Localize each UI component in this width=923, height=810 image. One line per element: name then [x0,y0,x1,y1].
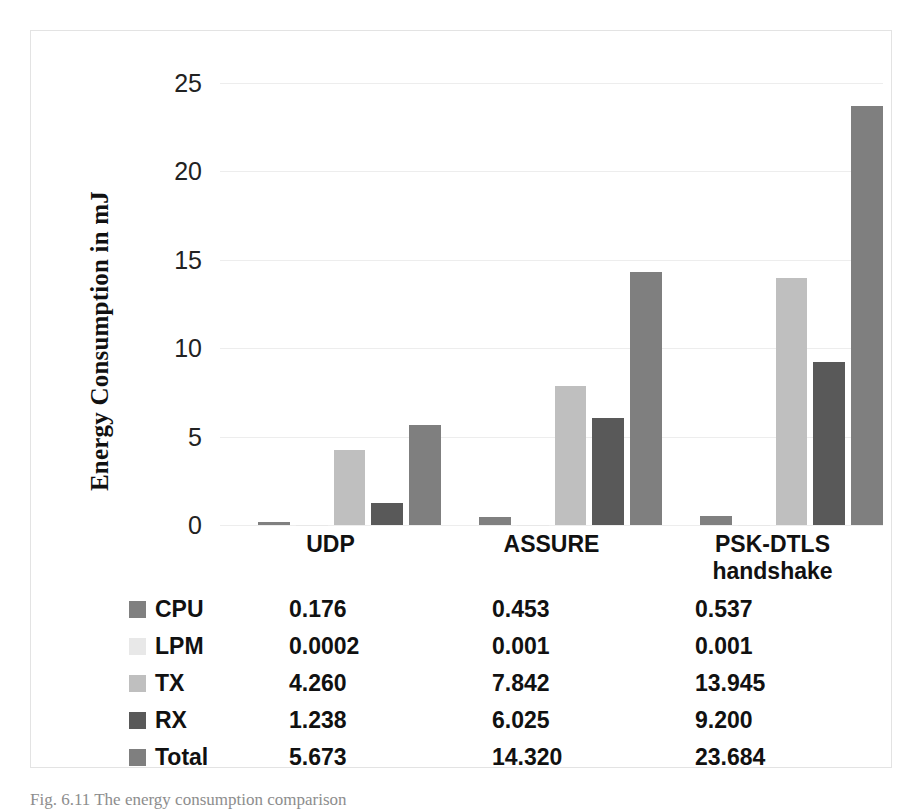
legend-swatch-icon [129,712,146,729]
table-cell-value: 0.453 [484,596,687,623]
bar-tx [776,278,808,525]
y-axis-title: Energy Consumption in mJ [77,151,123,531]
bar-rx [592,418,624,525]
table-cell-value: 0.0002 [281,633,484,660]
table-row: Total5.67314.32023.684 [91,739,891,776]
legend-swatch-icon [129,749,146,766]
category-label-row: UDPASSUREPSK-DTLShandshake [220,531,883,589]
table-row: RX1.2386.0259.200 [91,702,891,739]
legend-label: Total [155,744,208,771]
bar-total [409,425,441,525]
table-cell-value: 0.001 [687,633,890,660]
legend-label: CPU [155,596,204,623]
y-axis-tick-label: 15 [174,245,202,274]
legend-entry-total: Total [91,744,281,771]
bar-rx [371,503,403,525]
gridline [220,525,883,526]
legend-swatch-icon [129,675,146,692]
bar-tx [555,386,587,525]
y-axis-tick-label: 10 [174,334,202,363]
y-axis-tick-label: 0 [188,511,202,540]
category-label: PSK-DTLShandshake [662,531,883,585]
y-axis-tick-label: 20 [174,157,202,186]
bar-rx [813,362,845,525]
table-row: TX4.2607.84213.945 [91,665,891,702]
bar-cpu [479,517,511,525]
legend-label: LPM [155,633,204,660]
y-axis-tick-label: 25 [174,69,202,98]
legend-entry-tx: TX [91,670,281,697]
table-row: CPU0.1760.4530.537 [91,591,891,628]
bar-group [258,83,441,525]
table-cell-value: 23.684 [687,744,890,771]
legend-swatch-icon [129,638,146,655]
table-cell-value: 5.673 [281,744,484,771]
table-cell-value: 7.842 [484,670,687,697]
table-cell-value: 9.200 [687,707,890,734]
table-cell-value: 0.537 [687,596,890,623]
table-cell-value: 4.260 [281,670,484,697]
table-cell-value: 13.945 [687,670,890,697]
table-cell-value: 1.238 [281,707,484,734]
legend-label: TX [155,670,184,697]
data-table: CPU0.1760.4530.537LPM0.00020.0010.001TX4… [91,591,891,776]
bar-cpu [258,522,290,525]
bar-total [630,272,662,525]
legend-label: RX [155,707,187,734]
legend-entry-lpm: LPM [91,633,281,660]
table-row: LPM0.00020.0010.001 [91,628,891,665]
table-cell-value: 6.025 [484,707,687,734]
legend-entry-rx: RX [91,707,281,734]
chart-plot-area: 0510152025 [220,83,883,525]
table-cell-value: 0.001 [484,633,687,660]
bar-group [700,83,883,525]
category-label: ASSURE [441,531,662,558]
table-cell-value: 0.176 [281,596,484,623]
bar-tx [334,450,366,525]
bar-cpu [700,516,732,525]
legend-swatch-icon [129,601,146,618]
table-cell-value: 14.320 [484,744,687,771]
bar-total [851,106,883,525]
figure-frame: Energy Consumption in mJ 0510152025 UDPA… [30,30,892,768]
bar-group [479,83,662,525]
y-axis-tick-label: 5 [188,422,202,451]
figure-caption: Fig. 6.11 The energy consumption compari… [30,790,892,810]
legend-entry-cpu: CPU [91,596,281,623]
category-label: UDP [220,531,441,558]
